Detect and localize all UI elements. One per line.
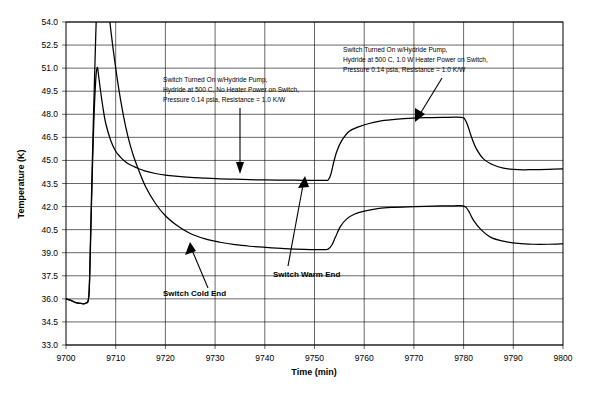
y-tick-label: 48.0: [41, 109, 58, 119]
y-tick-label: 33.0: [41, 340, 58, 350]
y-axis-title: Temperature (K): [16, 150, 26, 219]
y-tick-label: 42.0: [41, 202, 58, 212]
chart-canvas: 33.034.536.037.539.040.542.043.545.046.5…: [0, 0, 593, 394]
x-tick-label: 9780: [454, 353, 473, 363]
x-axis-tick-labels: 9700971097209730974097509760977097809790…: [57, 353, 573, 363]
annotation-left-line-3: Pressure 0.14 psia, Resistance = 1.0 K/W: [163, 96, 286, 104]
annotation-left-line-1: Switch Turned On w/Hydride Pump,: [163, 76, 268, 84]
x-tick-label: 9800: [554, 353, 573, 363]
x-tick-label: 9710: [106, 353, 125, 363]
annotation-left-group: Switch Turned On w/Hydride Pump, Hydride…: [163, 76, 299, 174]
annotation-left-arrow-head: [236, 162, 244, 174]
y-tick-label: 54.0: [41, 17, 58, 27]
annotation-warm-end-group: Switch Warm End: [273, 176, 340, 279]
x-axis-title: Time (min): [291, 367, 336, 377]
y-tick-label: 43.5: [41, 179, 58, 189]
x-tick-label: 9750: [305, 353, 324, 363]
y-tick-label: 34.5: [41, 317, 58, 327]
y-tick-label: 36.0: [41, 294, 58, 304]
y-tick-label: 45.0: [41, 155, 58, 165]
annotation-cold-end-arrow-head: [185, 242, 196, 255]
x-tick-label: 9790: [504, 353, 523, 363]
x-tick-label: 9730: [206, 353, 225, 363]
annotation-cold-end-label: Switch Cold End: [163, 289, 226, 298]
annotation-right-line-3: Pressure 0.14 psia, Resistance = 1.0 K/W: [343, 66, 466, 74]
annotation-warm-end-arrow-shaft: [288, 185, 303, 266]
annotation-cold-end-arrow-shaft: [192, 250, 208, 288]
annotation-right-group: Switch Turned On w/Hydride Pump, Hydride…: [343, 46, 488, 122]
x-tick-label: 9700: [57, 353, 76, 363]
annotation-left-line-2: Hydride at 500 C, No Heater Power on Swi…: [163, 86, 299, 94]
y-tick-label: 49.5: [41, 86, 58, 96]
x-tick-label: 9720: [156, 353, 175, 363]
x-tick-label: 9760: [355, 353, 374, 363]
gridlines: [66, 22, 563, 345]
y-axis-tick-marks: [62, 22, 66, 345]
annotation-right-line-1: Switch Turned On w/Hydride Pump,: [343, 46, 448, 54]
annotation-right-arrow-head: [415, 108, 425, 122]
x-tick-label: 9770: [404, 353, 423, 363]
y-tick-label: 39.0: [41, 248, 58, 258]
y-axis-tick-labels: 33.034.536.037.539.040.542.043.545.046.5…: [41, 17, 58, 350]
y-tick-label: 37.5: [41, 271, 58, 281]
annotation-warm-end-arrow-head: [298, 176, 309, 188]
temperature-vs-time-chart: 33.034.536.037.539.040.542.043.545.046.5…: [0, 0, 593, 394]
annotation-cold-end-group: Switch Cold End: [163, 242, 226, 298]
x-tick-label: 9740: [255, 353, 274, 363]
y-tick-label: 46.5: [41, 132, 58, 142]
annotation-warm-end-label: Switch Warm End: [273, 270, 340, 279]
y-tick-label: 52.5: [41, 40, 58, 50]
x-axis-tick-marks: [66, 345, 563, 349]
annotation-right-arrow-shaft: [420, 78, 442, 114]
y-tick-label: 40.5: [41, 225, 58, 235]
y-tick-label: 51.0: [41, 63, 58, 73]
annotation-right-line-2: Hydride at 500 C, 1.0 W Heater Power on …: [343, 56, 488, 64]
